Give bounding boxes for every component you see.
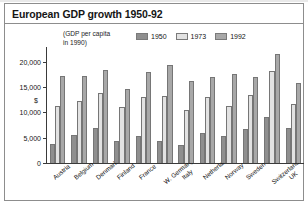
bar-group bbox=[90, 49, 111, 163]
bar bbox=[71, 135, 76, 163]
y-axis-tick-label: 5,000 bbox=[23, 134, 41, 141]
y-axis-tick-mark bbox=[43, 62, 46, 63]
bar-group bbox=[68, 49, 89, 163]
y-axis-tick-mark bbox=[43, 138, 46, 139]
x-axis-label-cell: Austria bbox=[46, 166, 68, 205]
y-axis-tick-label: 15,000 bbox=[20, 84, 41, 91]
legend-item-label: 1992 bbox=[230, 33, 246, 40]
x-axis-labels: AustriaBelgiumDenmarkFinlandFranceW. Ger… bbox=[46, 166, 304, 205]
bar bbox=[167, 65, 172, 163]
bar-group bbox=[133, 49, 154, 163]
bar bbox=[82, 76, 87, 163]
bar bbox=[103, 70, 108, 163]
y-axis-tick-label: 10,000 bbox=[20, 109, 41, 116]
x-axis-label-cell: Finland bbox=[111, 166, 133, 205]
bar bbox=[178, 145, 183, 163]
title-bar: European GDP growth 1950-92 bbox=[5, 4, 303, 24]
bar-group bbox=[261, 49, 282, 163]
y-axis-tick-label: 20,000 bbox=[20, 58, 41, 65]
y-axis-tick-mark bbox=[43, 87, 46, 88]
axis-note: (GDP per capita in 1990) bbox=[63, 30, 110, 47]
figure-frame: European GDP growth 1950-92 (GDP per cap… bbox=[4, 3, 304, 201]
bar bbox=[232, 74, 237, 163]
chart-legend: 195019731992 bbox=[136, 33, 246, 40]
bar bbox=[50, 144, 55, 163]
screenshot-root: European GDP growth 1950-92 (GDP per cap… bbox=[0, 0, 308, 205]
x-axis-label-cell: Netherlands bbox=[197, 166, 219, 205]
legend-item-label: 1973 bbox=[191, 33, 207, 40]
bar bbox=[296, 83, 301, 163]
bar bbox=[200, 133, 205, 163]
bar-group bbox=[218, 49, 239, 163]
x-axis-label-cell: Switzerland bbox=[261, 166, 283, 205]
scan-artifact-line bbox=[0, 0, 308, 2]
bar bbox=[157, 141, 162, 163]
plot-area: 20,00015,00010,0005,0000$ bbox=[46, 49, 304, 164]
bar bbox=[264, 117, 269, 163]
bar bbox=[136, 136, 141, 163]
bar bbox=[243, 129, 248, 163]
page-title: European GDP growth 1950-92 bbox=[12, 8, 163, 20]
x-axis-label-cell: W. Germany bbox=[154, 166, 176, 205]
x-axis-label-cell: Sweden bbox=[240, 166, 262, 205]
axis-note-line-1: (GDP per capita bbox=[63, 30, 110, 39]
legend-swatch-icon bbox=[215, 33, 227, 40]
x-axis-label-cell: Denmark bbox=[89, 166, 111, 205]
x-axis-label-cell: France bbox=[132, 166, 154, 205]
legend-swatch-icon bbox=[136, 33, 148, 40]
axis-note-line-2: in 1990) bbox=[63, 39, 110, 48]
legend-item-label: 1950 bbox=[151, 33, 167, 40]
legend-swatch-icon bbox=[176, 33, 188, 40]
bar-group bbox=[154, 49, 175, 163]
bar bbox=[125, 89, 130, 163]
x-axis-label-cell: Italy bbox=[175, 166, 197, 205]
y-axis-tick-mark bbox=[43, 112, 46, 113]
bar bbox=[114, 141, 119, 163]
bar bbox=[60, 76, 65, 163]
bar bbox=[210, 77, 215, 163]
bar bbox=[221, 136, 226, 163]
bar-groups bbox=[47, 49, 304, 163]
x-axis-label: UK bbox=[288, 170, 299, 181]
bar-group bbox=[176, 49, 197, 163]
bar-group bbox=[47, 49, 68, 163]
bar-group bbox=[111, 49, 132, 163]
bar-group bbox=[197, 49, 218, 163]
y-axis-unit-label: $ bbox=[34, 96, 38, 103]
legend-item: 1973 bbox=[176, 33, 207, 40]
x-axis-label: Italy bbox=[180, 168, 193, 181]
bar bbox=[275, 54, 280, 163]
y-axis-tick-mark bbox=[43, 163, 46, 164]
bar bbox=[93, 128, 98, 163]
bar bbox=[146, 72, 151, 163]
x-axis-label-cell: Belgium bbox=[68, 166, 90, 205]
legend-item: 1950 bbox=[136, 33, 167, 40]
legend-item: 1992 bbox=[215, 33, 246, 40]
x-axis-label-cell: Norway bbox=[218, 166, 240, 205]
bar-group bbox=[283, 49, 304, 163]
bar bbox=[189, 81, 194, 163]
y-axis-tick-label: 0 bbox=[37, 160, 41, 167]
x-axis-label-cell: UK bbox=[283, 166, 305, 205]
bar bbox=[286, 128, 291, 163]
bar-group bbox=[240, 49, 261, 163]
bar bbox=[253, 77, 258, 163]
